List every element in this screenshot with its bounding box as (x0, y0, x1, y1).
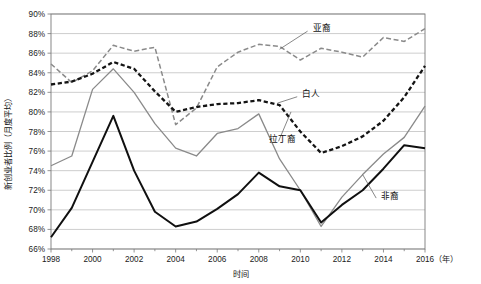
line-chart: 66%68%70%72%74%76%78%80%82%84%86%88%90% … (0, 0, 481, 284)
y-tick-label: 88% (29, 30, 45, 39)
chart-container: 66%68%70%72%74%76%78%80%82%84%86%88%90% … (0, 0, 481, 284)
y-tick-label: 78% (29, 128, 45, 137)
chart-background (0, 0, 481, 284)
series-label-0: 亚裔 (313, 22, 331, 33)
y-tick-label: 90% (29, 10, 45, 19)
x-tick-label: 2014 (374, 255, 393, 264)
series-label-2: 拉丁裔 (269, 133, 296, 144)
y-tick-label: 72% (29, 186, 45, 195)
y-axis-title: 新创业者比例（月度平均） (3, 94, 13, 190)
x-tick-label: 2006 (208, 255, 227, 264)
series-label-3: 非裔 (381, 190, 399, 201)
x-tick-label: 2016 (416, 255, 435, 264)
y-tick-label: 84% (29, 69, 45, 78)
x-tick-label: 2002 (125, 255, 144, 264)
x-tick-label: 2004 (167, 255, 186, 264)
y-tick-label: 68% (29, 225, 45, 234)
x-axis-year-unit: （年） (434, 254, 458, 264)
x-axis-title: 时间 (233, 269, 249, 279)
x-tick-label: 2010 (291, 255, 310, 264)
y-tick-label: 66% (29, 245, 45, 254)
y-tick-label: 74% (29, 167, 45, 176)
y-tick-label: 76% (29, 147, 45, 156)
y-tick-label: 82% (29, 88, 45, 97)
y-tick-label: 80% (29, 108, 45, 117)
x-tick-label: 2000 (83, 255, 102, 264)
y-tick-label: 86% (29, 49, 45, 58)
y-tick-label: 70% (29, 206, 45, 215)
series-label-1: 白人 (302, 88, 320, 99)
x-tick-label: 1998 (42, 255, 61, 264)
x-tick-label: 2012 (333, 255, 352, 264)
x-tick-label: 2008 (250, 255, 269, 264)
